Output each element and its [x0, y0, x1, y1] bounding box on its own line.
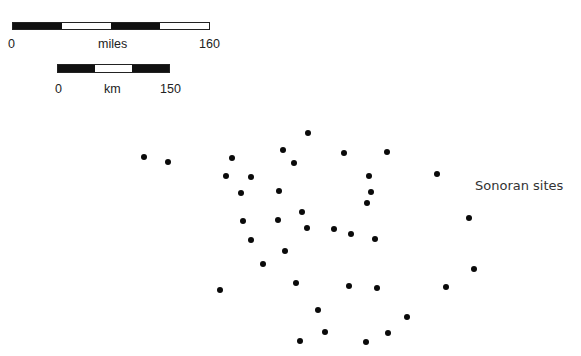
site-marker: [443, 284, 449, 290]
site-marker: [363, 339, 369, 345]
scale-segment-white: [95, 65, 132, 72]
site-marker: [348, 231, 354, 237]
miles-scale-unit: miles: [98, 38, 127, 51]
site-marker: [384, 149, 390, 155]
km-scale-start: 0: [55, 83, 62, 96]
site-marker: [240, 218, 246, 224]
site-marker: [291, 160, 297, 166]
site-marker: [366, 173, 372, 179]
scale-segment-black: [13, 23, 62, 29]
site-marker: [297, 338, 303, 344]
scale-segment-black: [58, 65, 95, 72]
site-marker: [275, 217, 281, 223]
site-marker: [299, 209, 305, 215]
site-marker: [260, 261, 266, 267]
site-marker: [331, 226, 337, 232]
scale-segment-black: [111, 23, 160, 29]
site-marker: [141, 154, 147, 160]
site-marker: [229, 155, 235, 161]
site-marker: [315, 307, 321, 313]
km-scale-end: 150: [160, 83, 181, 96]
site-marker: [305, 130, 311, 136]
site-marker: [404, 314, 410, 320]
site-marker: [322, 329, 328, 335]
site-marker: [385, 330, 391, 336]
km-scale-bar: [57, 64, 170, 73]
site-marker: [293, 280, 299, 286]
miles-scale-bar: [12, 22, 210, 30]
site-marker: [276, 188, 282, 194]
site-marker: [466, 215, 472, 221]
miles-scale-end: 160: [199, 38, 220, 51]
site-marker: [374, 285, 380, 291]
site-marker: [471, 266, 477, 272]
site-marker: [368, 189, 374, 195]
site-marker: [341, 150, 347, 156]
site-marker: [248, 237, 254, 243]
site-marker: [364, 200, 370, 206]
km-scale-unit: km: [104, 83, 121, 96]
site-marker: [165, 159, 171, 165]
scale-segment-black: [132, 65, 169, 72]
site-marker: [346, 283, 352, 289]
site-marker: [223, 173, 229, 179]
site-marker: [434, 171, 440, 177]
site-marker: [372, 236, 378, 242]
site-marker: [282, 248, 288, 254]
site-marker: [248, 174, 254, 180]
miles-scale-start: 0: [8, 38, 15, 51]
site-marker: [280, 147, 286, 153]
site-marker: [238, 190, 244, 196]
site-marker: [217, 287, 223, 293]
scale-segment-white: [160, 23, 209, 29]
scale-segment-white: [62, 23, 111, 29]
site-marker: [304, 225, 310, 231]
legend-label: Sonoran sites: [475, 178, 563, 193]
